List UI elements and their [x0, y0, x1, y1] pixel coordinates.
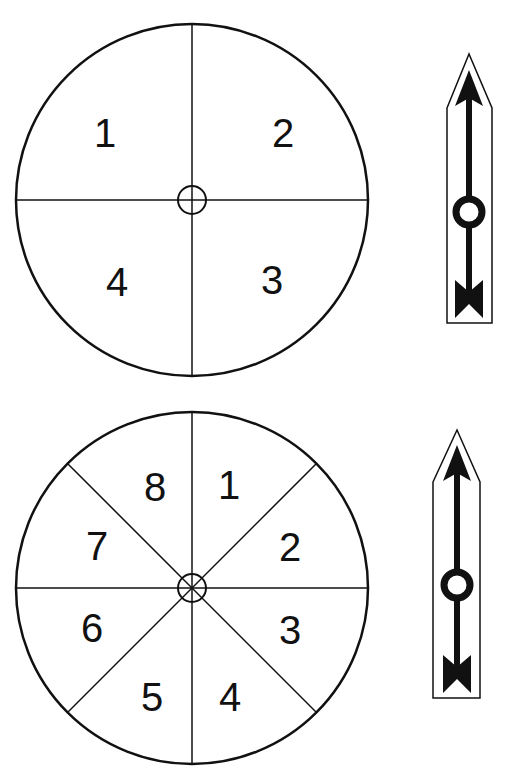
section-label: 3 [261, 258, 283, 302]
section-label: 3 [279, 608, 301, 652]
section-label: 5 [141, 675, 163, 719]
arrow-pivot-icon [456, 199, 482, 225]
section-label: 1 [94, 111, 116, 155]
section-label: 7 [86, 524, 108, 568]
section-label: 1 [218, 463, 240, 507]
section-label: 4 [219, 675, 241, 719]
spinner-arrow-1[interactable] [447, 54, 492, 323]
section-label: 6 [81, 606, 103, 650]
arrow-pivot-icon [444, 572, 470, 598]
section-label: 2 [279, 525, 301, 569]
spinner-diagram: 1 2 3 4 1 2 3 4 5 6 7 8 [0, 0, 505, 775]
spinner-arrow-2[interactable] [433, 430, 480, 698]
section-label: 8 [144, 465, 166, 509]
section-label: 2 [272, 111, 294, 155]
eight-section-spinner: 1 2 3 4 5 6 7 8 [16, 412, 368, 764]
four-section-spinner: 1 2 3 4 [16, 24, 368, 376]
section-label: 4 [106, 260, 128, 304]
